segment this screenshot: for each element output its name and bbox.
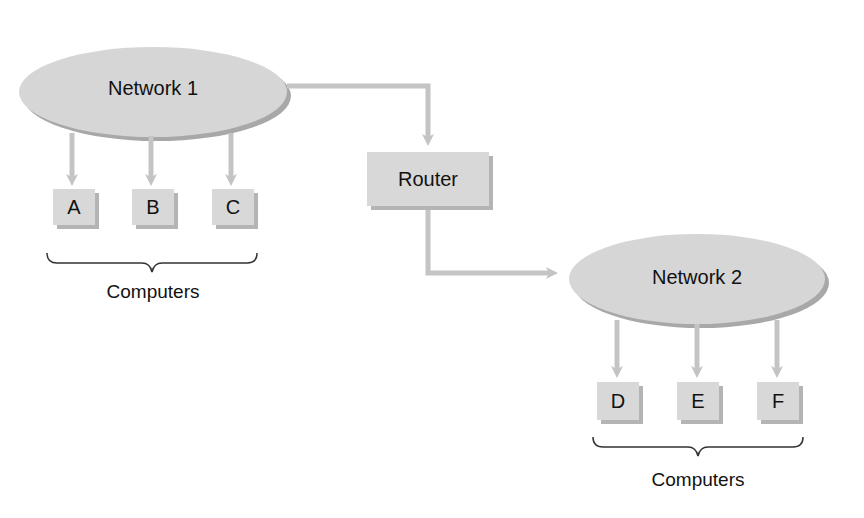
computer-a: A	[53, 189, 95, 225]
computer-label: D	[611, 390, 625, 413]
computer-e: E	[677, 382, 719, 420]
link-network1-router	[287, 86, 428, 140]
computers-caption-1: Computers	[107, 281, 200, 303]
brace-group-2	[593, 437, 803, 456]
network-2-label: Network 2	[652, 266, 742, 289]
network-1-label: Network 1	[108, 77, 198, 100]
router-node: Router	[367, 152, 489, 206]
network-2-arrows	[617, 320, 777, 372]
computer-c: C	[212, 189, 254, 225]
computer-label: F	[772, 390, 784, 413]
brace-group-1	[47, 253, 257, 272]
computer-d: D	[597, 382, 639, 420]
computer-b: B	[132, 189, 174, 225]
computers-caption-2: Computers	[652, 469, 745, 491]
computer-label: E	[691, 390, 704, 413]
router-label: Router	[398, 168, 458, 191]
computer-label: B	[146, 196, 159, 219]
link-router-network2	[428, 206, 552, 273]
network-1-arrows	[72, 133, 231, 180]
computer-f: F	[757, 382, 799, 420]
computer-label: A	[67, 196, 80, 219]
computer-label: C	[226, 196, 240, 219]
